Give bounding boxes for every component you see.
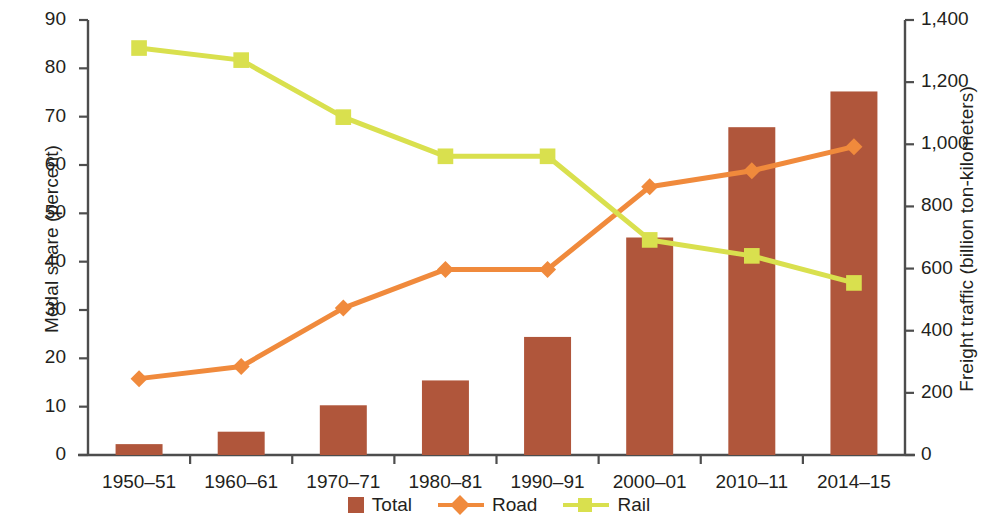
y-axis-left-tick-label: 30	[0, 298, 66, 320]
marker-rail	[846, 275, 862, 291]
y-axis-right-tick-label: 600	[921, 257, 953, 279]
x-axis-category-label: 1980–81	[394, 471, 496, 493]
marker-rail	[642, 232, 658, 248]
legend-swatch-line-icon	[563, 497, 609, 513]
legend-label: Rail	[617, 494, 650, 516]
chart-legend: TotalRoadRail	[0, 494, 998, 516]
legend-marker-square-icon	[578, 498, 592, 512]
chart-figure: Modal share (percent) Freight traffic (b…	[0, 0, 998, 528]
y-axis-left-tick-label: 20	[0, 346, 66, 368]
y-axis-left-tick-label: 70	[0, 105, 66, 127]
y-axis-right-tick-label: 800	[921, 194, 953, 216]
bar-total	[422, 380, 469, 455]
x-axis-category-label: 1970–71	[292, 471, 394, 493]
legend-item-total[interactable]: Total	[348, 494, 412, 516]
x-axis-category-label: 1990–91	[497, 471, 599, 493]
legend-label: Road	[492, 494, 537, 516]
bar-total	[626, 238, 673, 456]
x-axis-category-label: 1960–61	[190, 471, 292, 493]
bar-total	[116, 444, 163, 455]
y-axis-left-title: Modal share (percent)	[41, 39, 63, 439]
bar-total	[524, 337, 571, 455]
marker-rail	[335, 109, 351, 125]
legend-item-rail[interactable]: Rail	[563, 494, 650, 516]
y-axis-right-tick-label: 0	[921, 443, 932, 465]
legend-label: Total	[372, 494, 412, 516]
marker-rail	[540, 148, 556, 164]
y-axis-left-tick-label: 80	[0, 56, 66, 78]
marker-rail	[744, 248, 760, 264]
y-axis-right-tick-label: 400	[921, 319, 953, 341]
y-axis-right-tick-label: 1,200	[921, 70, 969, 92]
chart-plot-area	[0, 0, 998, 528]
y-axis-left-tick-label: 0	[0, 443, 66, 465]
legend-swatch-bar-icon	[348, 497, 364, 513]
marker-rail	[438, 148, 454, 164]
y-axis-left-tick-label: 90	[0, 8, 66, 30]
marker-road	[437, 261, 454, 278]
y-axis-right-tick-label: 1,000	[921, 132, 969, 154]
bar-total	[320, 405, 367, 455]
legend-item-road[interactable]: Road	[438, 494, 537, 516]
marker-rail	[233, 52, 249, 68]
x-axis-category-label: 2000–01	[599, 471, 701, 493]
y-axis-left-tick-label: 10	[0, 395, 66, 417]
y-axis-right-tick-label: 1,400	[921, 8, 969, 30]
marker-road	[131, 370, 148, 387]
bar-total	[218, 432, 265, 455]
legend-marker-diamond-icon	[450, 495, 470, 515]
y-axis-right-tick-label: 200	[921, 381, 953, 403]
x-axis-category-label: 2014–15	[803, 471, 905, 493]
y-axis-left-tick-label: 60	[0, 153, 66, 175]
x-axis-category-label: 2010–11	[701, 471, 803, 493]
x-axis-category-label: 1950–51	[88, 471, 190, 493]
y-axis-left-tick-label: 50	[0, 201, 66, 223]
marker-rail	[131, 40, 147, 56]
legend-swatch-line-icon	[438, 497, 484, 513]
y-axis-left-tick-label: 40	[0, 250, 66, 272]
